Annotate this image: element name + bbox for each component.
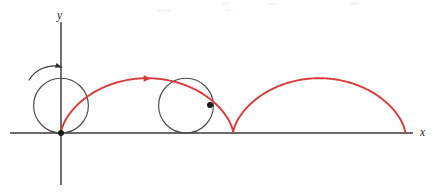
cycloid-figure: x y bbox=[0, 0, 438, 196]
tracing-point-dot bbox=[207, 102, 213, 108]
tracing-point-markers bbox=[58, 102, 213, 136]
rotation-direction-arrow-icon bbox=[29, 63, 63, 80]
curve-direction-arrow-icon bbox=[144, 75, 152, 81]
x-axis-label: x bbox=[419, 126, 426, 138]
cycloid-curve bbox=[61, 78, 405, 133]
y-axis-label: y bbox=[56, 9, 63, 22]
origin-point-dot bbox=[58, 130, 64, 136]
figure-canvas: x y bbox=[0, 0, 438, 196]
scan-artifacts bbox=[157, 2, 359, 12]
